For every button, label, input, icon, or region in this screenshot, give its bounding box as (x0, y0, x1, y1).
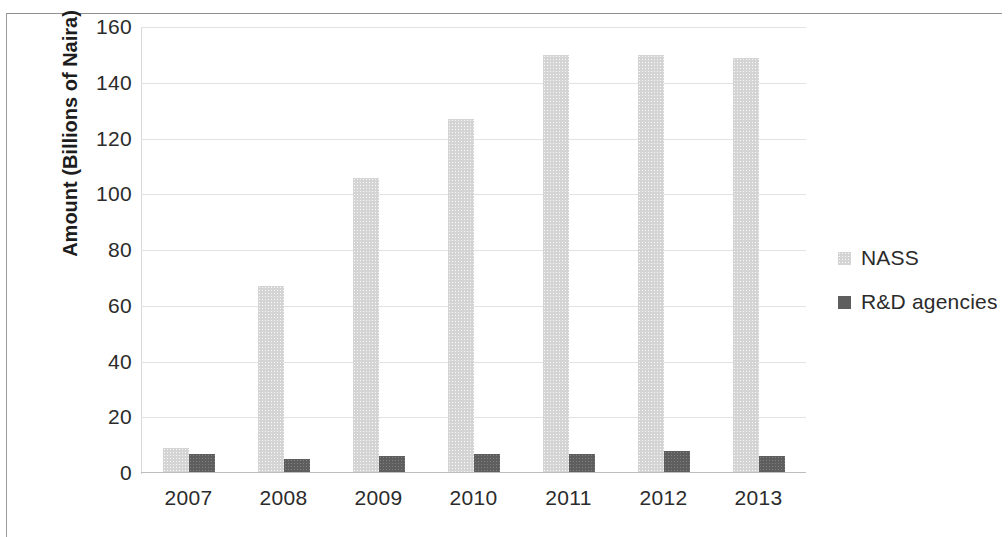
x-axis-tick-label-2012: 2012 (616, 486, 711, 510)
bar-nass-2007[interactable] (163, 448, 189, 473)
y-axis-tick-label: 100 (96, 182, 132, 206)
x-axis-line (141, 472, 806, 473)
x-axis-tick-label-2013: 2013 (711, 486, 806, 510)
y-axis-tick-labels: 160140120100806040200 (40, 27, 132, 473)
y-axis-tick-label: 120 (96, 127, 132, 151)
bar-group (711, 27, 806, 473)
y-axis-tick-label: 40 (108, 350, 132, 374)
legend-item-r-d-agencies[interactable]: R&D agencies (838, 291, 1006, 313)
bar-nass-2010[interactable] (448, 119, 474, 473)
x-axis-tick-label-2008: 2008 (236, 486, 331, 510)
y-axis-tick-label: 140 (96, 71, 132, 95)
x-axis-tick-label-2007: 2007 (141, 486, 236, 510)
chart-figure: Amount (Billions of Naira) 1601401201008… (0, 0, 1008, 537)
y-axis-tick-label: 80 (108, 238, 132, 262)
bar-group (141, 27, 236, 473)
bar-nass-2012[interactable] (638, 55, 664, 473)
y-axis-tick-label: 0 (120, 461, 132, 485)
bar-r-d-agencies-2008[interactable] (284, 459, 310, 473)
bar-nass-2011[interactable] (543, 55, 569, 473)
legend-swatch-icon (838, 296, 851, 309)
figure-border-left (6, 13, 7, 537)
y-axis-tick-label: 160 (96, 15, 132, 39)
legend-label: R&D agencies (861, 290, 998, 314)
bar-nass-2013[interactable] (733, 58, 759, 473)
legend-swatch-icon (838, 252, 851, 265)
bar-r-d-agencies-2009[interactable] (379, 456, 405, 473)
bar-group (521, 27, 616, 473)
bar-r-d-agencies-2007[interactable] (189, 454, 215, 474)
x-axis-tick-labels: 2007200820092010201120122013 (141, 486, 806, 520)
bar-r-d-agencies-2011[interactable] (569, 454, 595, 474)
bar-r-d-agencies-2012[interactable] (664, 451, 690, 473)
bar-group (331, 27, 426, 473)
chart-legend: NASSR&D agencies (838, 247, 1006, 335)
y-axis-tick-label: 20 (108, 405, 132, 429)
y-axis-tick-label: 60 (108, 294, 132, 318)
bar-nass-2009[interactable] (353, 178, 379, 473)
x-axis-tick-label-2011: 2011 (521, 486, 616, 510)
x-axis-tick-label-2009: 2009 (331, 486, 426, 510)
bar-nass-2008[interactable] (258, 286, 284, 473)
bar-r-d-agencies-2013[interactable] (759, 456, 785, 473)
bar-group (616, 27, 711, 473)
bar-group (426, 27, 521, 473)
bar-r-d-agencies-2010[interactable] (474, 454, 500, 474)
legend-item-nass[interactable]: NASS (838, 247, 1006, 269)
plot-area (141, 27, 806, 473)
bar-group (236, 27, 331, 473)
x-axis-tick-label-2010: 2010 (426, 486, 521, 510)
legend-label: NASS (861, 246, 919, 270)
